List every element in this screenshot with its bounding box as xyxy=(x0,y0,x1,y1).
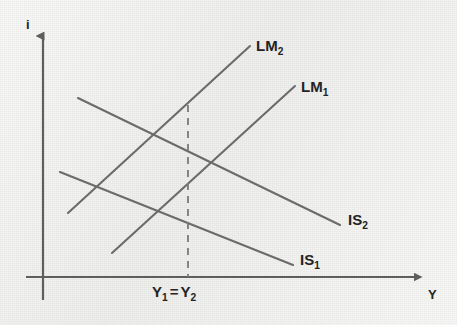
is1-curve-label: IS1 xyxy=(300,252,320,271)
lm1-label-subscript: 1 xyxy=(323,87,329,98)
equilibrium-left-text: Y xyxy=(152,283,162,300)
equilibrium-operator: = xyxy=(168,283,181,300)
equilibrium-right-text: Y xyxy=(180,283,190,300)
lm2-label-subscript: 2 xyxy=(278,46,284,57)
lm1-curve-label: LM1 xyxy=(301,79,328,98)
is2-label-text: IS xyxy=(348,211,362,228)
is-lm-diagram-svg xyxy=(0,0,457,330)
lm2-label-text: LM xyxy=(256,37,278,54)
x-axis-label: Y xyxy=(428,288,437,301)
is1-label-text: IS xyxy=(300,251,314,268)
lm1-label-text: LM xyxy=(301,78,323,95)
is2-curve-label: IS2 xyxy=(348,212,368,231)
is2-label-subscript: 2 xyxy=(362,220,368,231)
lm2-curve-label: LM2 xyxy=(256,38,283,57)
equilibrium-output-label: Y1=Y2 xyxy=(152,284,196,303)
is1-label-subscript: 1 xyxy=(314,260,320,271)
is2-curve xyxy=(78,98,340,225)
lm2-curve xyxy=(68,46,250,213)
y-axis-label: i xyxy=(26,18,30,31)
lm1-curve xyxy=(112,86,295,253)
equilibrium-right-subscript: 2 xyxy=(190,292,196,303)
equilibrium-left-subscript: 1 xyxy=(162,292,168,303)
figure-canvas: i Y LM2 LM1 IS2 IS1 Y1=Y2 xyxy=(0,0,457,330)
figure-bottom-border xyxy=(0,325,457,330)
